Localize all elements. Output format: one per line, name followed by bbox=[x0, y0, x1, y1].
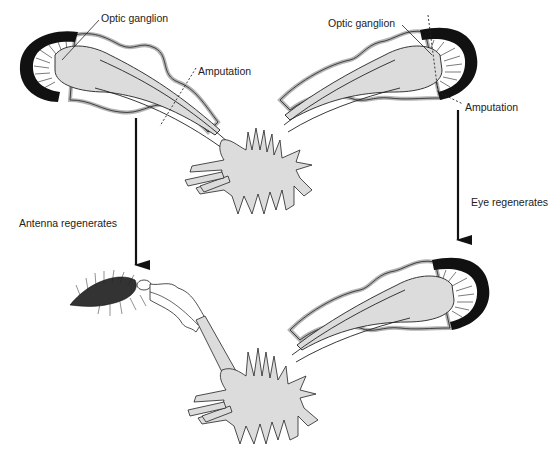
bottom-right-eyestalk bbox=[290, 258, 489, 362]
regenerated-antenna bbox=[70, 270, 240, 384]
label-amputation-left: Amputation bbox=[198, 65, 251, 77]
regeneration-diagram: Optic ganglion Amputation Optic ganglion… bbox=[0, 0, 560, 452]
label-amputation-right: Amputation bbox=[465, 101, 518, 113]
top-right-eyestalk bbox=[280, 15, 477, 132]
bottom-brain bbox=[188, 348, 318, 444]
label-optic-ganglion-left: Optic ganglion bbox=[101, 12, 168, 24]
label-eye-regenerates: Eye regenerates bbox=[471, 196, 548, 208]
label-optic-ganglion-right: Optic ganglion bbox=[328, 17, 395, 29]
top-brain bbox=[185, 128, 312, 214]
top-left-eyestalk bbox=[20, 20, 228, 148]
label-antenna-regenerates: Antenna regenerates bbox=[19, 217, 117, 229]
